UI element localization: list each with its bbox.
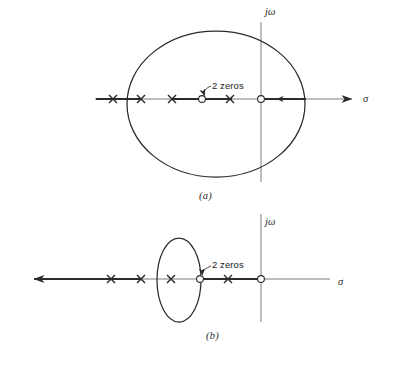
zeros-leader-a (204, 86, 211, 96)
page-bleed-mark (374, 78, 378, 90)
panel-a (95, 22, 352, 182)
page-bleed-mark (382, 155, 386, 167)
root-locus-figure (0, 0, 419, 367)
locus-ellipse-b (157, 238, 201, 322)
real-axis-label-b: σ (338, 276, 343, 287)
zeros-annotation-b: 2 zeros (212, 259, 244, 270)
origin-marker-a (258, 96, 265, 103)
origin-marker-b (258, 276, 265, 283)
zeros-leader-b (202, 266, 211, 275)
panel-b (34, 214, 330, 322)
real-axis-label-a: σ (363, 93, 368, 104)
page-bleed-mark (372, 242, 376, 254)
zeros-annotation-a: 2 zeros (212, 80, 244, 91)
imag-axis-label-b: jω (265, 216, 275, 227)
imag-axis-label-a: jω (265, 6, 275, 17)
page-bleed-mark (377, 60, 381, 72)
page-bleed-mark (374, 140, 378, 152)
figure-page: jω σ 2 zeros (a) jω σ 2 zeros (b) (0, 0, 419, 367)
panel-caption-a: (a) (199, 190, 212, 201)
locus-ellipse-a (127, 31, 305, 177)
panel-caption-b: (b) (206, 330, 219, 341)
zero-marker-b (197, 276, 204, 283)
zero-marker-a (199, 96, 206, 103)
